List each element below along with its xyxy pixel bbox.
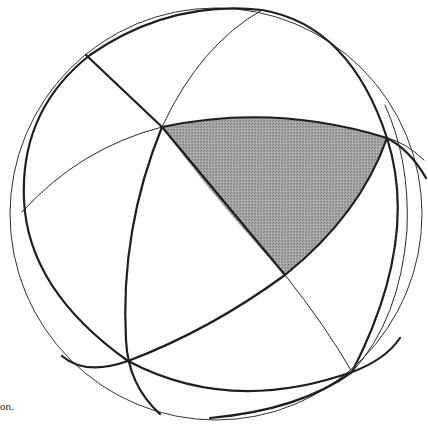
great-circle-4	[125, 127, 162, 414]
great-circle-4-thin-top	[162, 10, 262, 127]
great-circle-2-thin-left	[22, 127, 162, 212]
great-circle-1c	[285, 275, 352, 372]
great-circle-6	[24, 200, 400, 391]
great-circle-1	[86, 55, 162, 127]
sphere-diagram	[0, 0, 428, 424]
shaded-spherical-triangle	[162, 117, 387, 275]
figure-caption-fragment: on.	[0, 401, 14, 412]
